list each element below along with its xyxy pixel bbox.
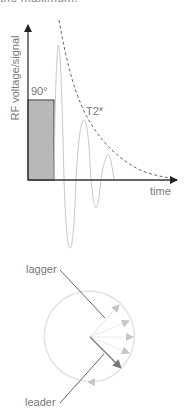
phase-diagram: lagger leader bbox=[25, 263, 134, 408]
rf-pulse-block bbox=[28, 100, 54, 180]
lagger-label: lagger bbox=[26, 263, 57, 275]
diagram-canvas: RF voltage/signal 90° T2* time lagger le… bbox=[0, 0, 185, 420]
leader-label: leader bbox=[25, 396, 56, 408]
precession-arc-arrow bbox=[88, 370, 120, 382]
t2star-envelope-curve bbox=[59, 20, 176, 179]
spin-vector-lagger bbox=[90, 305, 119, 337]
fid-signal-curve bbox=[54, 45, 114, 248]
pulse-angle-label: 90° bbox=[31, 85, 48, 97]
fid-diagram: RF voltage/signal 90° T2* time bbox=[9, 20, 177, 248]
lagger-pointer bbox=[60, 270, 105, 318]
t2star-label: T2* bbox=[86, 105, 104, 117]
spin-vector bbox=[90, 337, 129, 353]
spin-vector bbox=[90, 321, 129, 337]
x-axis-label: time bbox=[150, 185, 171, 197]
y-axis-label: RF voltage/signal bbox=[9, 36, 21, 121]
spin-vector-leader bbox=[90, 337, 121, 368]
leader-pointer bbox=[60, 354, 104, 403]
